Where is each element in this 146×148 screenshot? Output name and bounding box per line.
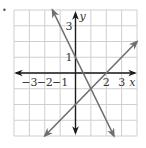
y-axis-label: y: [79, 10, 87, 23]
x-tick-label: 2: [103, 76, 110, 89]
x-tick-label: −2: [37, 76, 53, 89]
x-axis-label: x: [129, 76, 136, 89]
y-tick-label: 1: [66, 51, 73, 64]
y-tick-label: 3: [66, 20, 73, 33]
x-tick-label: −3: [21, 76, 37, 89]
coordinate-plane-chart: −3−2−12331xy: [0, 0, 146, 148]
x-tick-label: −1: [52, 76, 68, 89]
x-tick-label: 3: [118, 76, 125, 89]
